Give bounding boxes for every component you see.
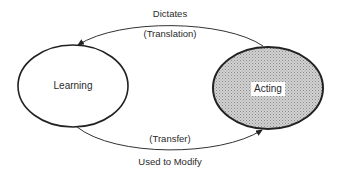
translation-label: (Translation) xyxy=(144,28,197,39)
learning-label: Learning xyxy=(54,80,93,92)
dictates-label: Dictates xyxy=(153,8,187,19)
transfer-label: (Transfer) xyxy=(149,133,190,144)
learning-acting-cycle-diagram xyxy=(0,0,341,177)
acting-label: Acting xyxy=(251,82,285,96)
used-to-modify-label: Used to Modify xyxy=(138,156,201,167)
